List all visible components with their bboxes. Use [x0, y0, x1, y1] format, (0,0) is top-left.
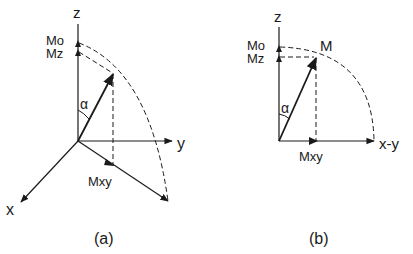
m-label-b: M: [320, 37, 333, 54]
magnetization-diagram: z Mo Mz α y Mxy x (a) z Mo Mz M α x-y Mx…: [0, 0, 413, 254]
caption-b: (b): [309, 230, 329, 247]
mxy-label-a: Mxy: [88, 174, 112, 189]
y-label-a: y: [177, 135, 185, 152]
z-label-a: z: [73, 4, 81, 21]
mz-arrowhead-b: [276, 55, 282, 62]
x-axis-a: [21, 141, 78, 202]
mz-dashed-a: [79, 52, 111, 72]
caption-a: (a): [94, 230, 114, 247]
z-label-b: z: [274, 8, 282, 25]
xy-label-b: x-y: [379, 135, 399, 152]
rotation-arc-b: [280, 47, 374, 140]
x-label-a: x: [6, 201, 14, 218]
panel-a: z Mo Mz α y Mxy x (a): [6, 4, 185, 247]
mxy-arrowhead-b: [309, 137, 318, 145]
mo-arrowhead-b: [276, 45, 282, 52]
mxy-label-b: Mxy: [299, 149, 323, 164]
transverse-line-a: [78, 141, 168, 201]
mz-label-b: Mz: [247, 51, 264, 66]
mz-label-a: Mz: [46, 46, 63, 61]
alpha-label-b: α: [281, 100, 289, 116]
panel-b: z Mo Mz M α x-y Mxy (b): [247, 8, 399, 247]
alpha-label-a: α: [80, 96, 88, 112]
